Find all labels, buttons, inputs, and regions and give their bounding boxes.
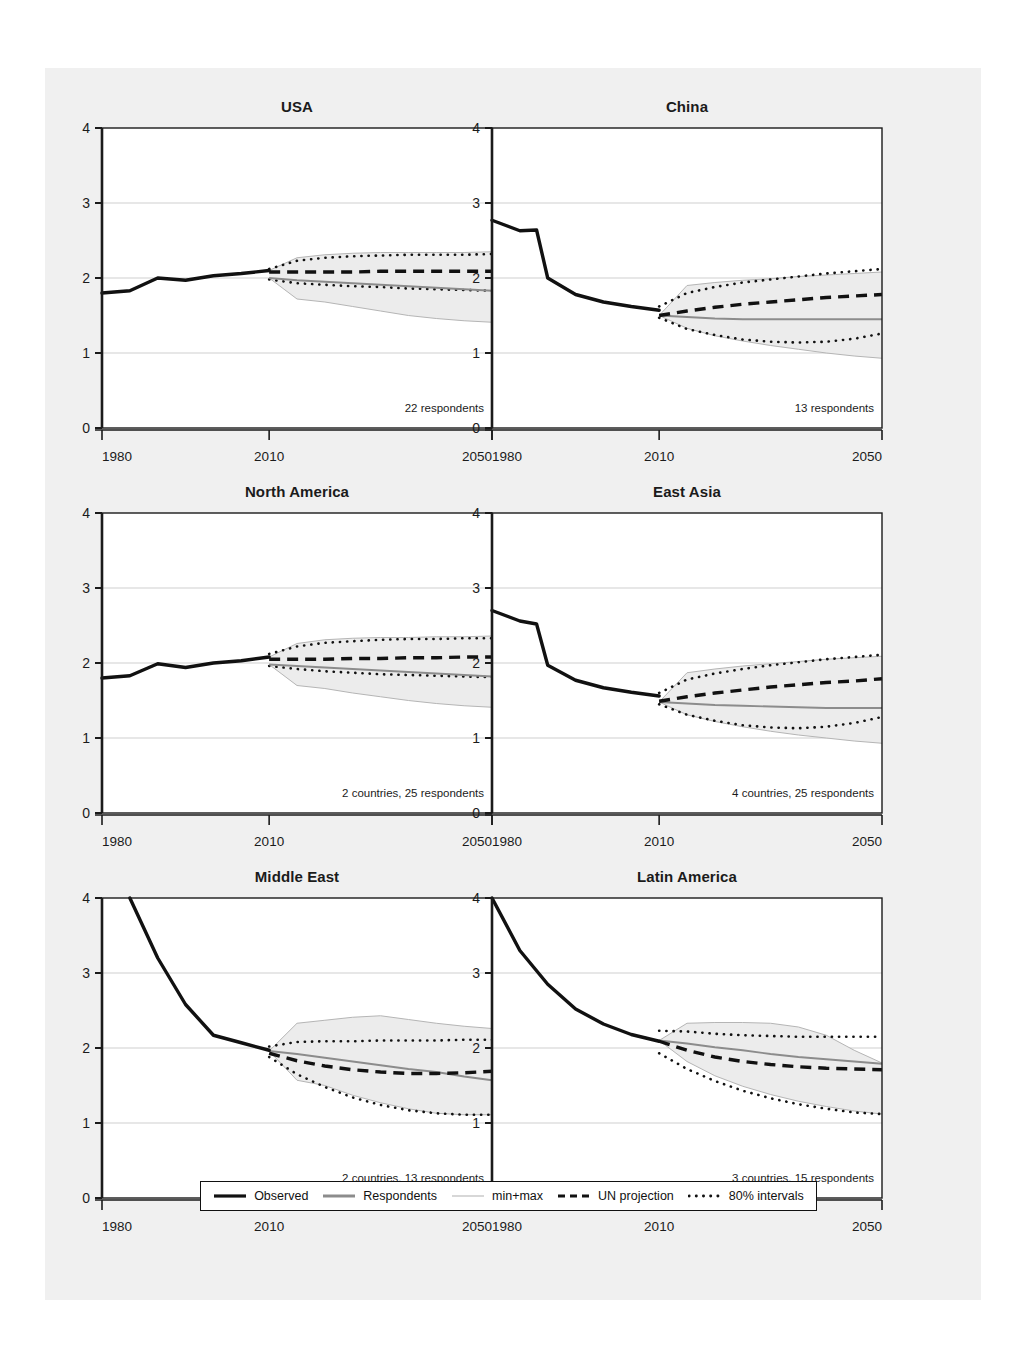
svg-text:2010: 2010 (254, 1219, 284, 1234)
legend-swatch-solid-thick-black (213, 1190, 247, 1202)
svg-text:2: 2 (472, 655, 480, 671)
plot-area: 01234198020102050 (60, 122, 498, 468)
panel-note: 13 respondents (492, 402, 874, 414)
svg-text:1: 1 (82, 730, 90, 746)
panel-title: China (492, 98, 882, 115)
legend-item-respondents: Respondents (322, 1189, 437, 1203)
svg-text:0: 0 (472, 805, 480, 821)
svg-text:2: 2 (82, 655, 90, 671)
svg-text:3: 3 (82, 195, 90, 211)
svg-text:3: 3 (472, 580, 480, 596)
svg-text:4: 4 (472, 507, 480, 521)
svg-text:2: 2 (82, 1040, 90, 1056)
svg-text:1980: 1980 (492, 1219, 522, 1234)
svg-text:3: 3 (472, 195, 480, 211)
panel-title: USA (102, 98, 492, 115)
svg-text:1980: 1980 (102, 449, 132, 464)
svg-text:2010: 2010 (644, 834, 674, 849)
panel-note: 22 respondents (102, 402, 484, 414)
svg-text:4: 4 (82, 892, 90, 906)
svg-text:1980: 1980 (492, 834, 522, 849)
svg-text:0: 0 (82, 805, 90, 821)
legend-label: Respondents (363, 1189, 437, 1203)
svg-text:1: 1 (82, 345, 90, 361)
svg-text:4: 4 (472, 892, 480, 906)
legend-swatch-dotted-black (688, 1190, 722, 1202)
svg-text:1: 1 (82, 1115, 90, 1131)
svg-text:0: 0 (82, 1190, 90, 1206)
legend-item-min-max: min+max (451, 1189, 543, 1203)
panel-note: 4 countries, 25 respondents (492, 787, 874, 799)
svg-text:2: 2 (82, 270, 90, 286)
svg-text:3: 3 (82, 580, 90, 596)
svg-text:4: 4 (472, 122, 480, 136)
svg-text:2: 2 (472, 1040, 480, 1056)
svg-text:2050: 2050 (852, 834, 882, 849)
panel-note: 2 countries, 25 respondents (102, 787, 484, 799)
legend-item-80-intervals: 80% intervals (688, 1189, 804, 1203)
legend-swatch-solid-thin-lightgray (451, 1190, 485, 1202)
svg-text:1980: 1980 (492, 449, 522, 464)
legend-item-observed: Observed (213, 1189, 308, 1203)
legend-label: min+max (492, 1189, 543, 1203)
legend-label: Observed (254, 1189, 308, 1203)
legend-swatch-solid-medium-gray (322, 1190, 356, 1202)
svg-text:2: 2 (472, 270, 480, 286)
svg-text:1: 1 (472, 1115, 480, 1131)
figure-canvas: USA0123419802010205022 respondentsChina0… (45, 68, 981, 1300)
panel-title: Latin America (492, 868, 882, 885)
svg-text:3: 3 (82, 965, 90, 981)
svg-text:2010: 2010 (254, 449, 284, 464)
plot-area: 01234198020102050 (60, 507, 498, 853)
panel-title: North America (102, 483, 492, 500)
svg-text:2010: 2010 (254, 834, 284, 849)
svg-text:1980: 1980 (102, 1219, 132, 1234)
svg-text:2050: 2050 (852, 1219, 882, 1234)
svg-text:1: 1 (472, 345, 480, 361)
svg-text:3: 3 (472, 965, 480, 981)
chart-legend: ObservedRespondentsmin+maxUN projection8… (200, 1181, 817, 1211)
panel-title: East Asia (492, 483, 882, 500)
legend-label: 80% intervals (729, 1189, 804, 1203)
svg-text:2010: 2010 (644, 449, 674, 464)
svg-text:0: 0 (82, 420, 90, 436)
plot-area: 01234198020102050 (450, 507, 888, 853)
legend-label: UN projection (598, 1189, 674, 1203)
svg-text:2010: 2010 (644, 1219, 674, 1234)
svg-text:4: 4 (82, 507, 90, 521)
legend-item-un-projection: UN projection (557, 1189, 674, 1203)
svg-text:1980: 1980 (102, 834, 132, 849)
svg-text:2050: 2050 (852, 449, 882, 464)
plot-area: 01234198020102050 (450, 122, 888, 468)
legend-swatch-dashed-black (557, 1190, 591, 1202)
svg-text:0: 0 (472, 420, 480, 436)
svg-text:4: 4 (82, 122, 90, 136)
svg-text:1: 1 (472, 730, 480, 746)
panel-title: Middle East (102, 868, 492, 885)
